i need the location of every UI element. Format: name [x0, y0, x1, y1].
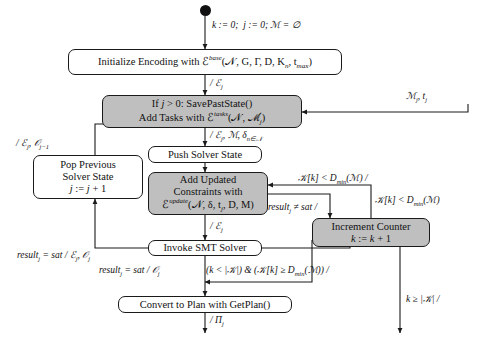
node-push-solver-state[interactable]: Push Solver State — [148, 146, 262, 163]
flowchart-canvas: Initialize Encoding with ℰbase(𝒩, G, Γ, … — [0, 0, 489, 344]
edge-label-plan-out: / Πj — [210, 316, 224, 327]
node-add-updated-constraints[interactable]: Add Updated Constraints with ℰupdate(𝒩, … — [148, 172, 268, 215]
node-increment-counter[interactable]: Increment Counter k := k + 1 — [312, 218, 430, 247]
node-save-past-state[interactable]: If j > 0: SavePastState() Add Tasks with… — [102, 95, 302, 128]
node-increment-line-1: Increment Counter — [331, 221, 410, 233]
node-convert-line-1: Convert to Plan with GetPlan() — [140, 299, 271, 311]
node-initialize[interactable]: Initialize Encoding with ℰbase(𝒩, G, Γ, … — [68, 49, 342, 75]
node-initialize-line-1: Initialize Encoding with ℰbase(𝒩, G, Γ, … — [98, 54, 312, 70]
edge-label-kmin-top: 𝒦[k] < Dmin(ℳ) / — [298, 174, 368, 185]
node-convert-to-plan[interactable]: Convert to Plan with GetPlan() — [118, 296, 292, 313]
edge-label-save-out: / ℰj, ℳ, δn∈𝒩 — [210, 131, 262, 142]
edge-label-result-notsat: resultj ≠ sat / — [268, 203, 317, 214]
node-update-line-1: Add Updated — [180, 174, 236, 186]
node-update-line-2: Constraints with — [173, 186, 242, 198]
edge-label-result-sat-o: resultj = sat / 𝒪j — [99, 266, 160, 277]
node-pop-line-2: Solver State — [62, 171, 113, 183]
node-invoke-line-1: Invoke SMT Solver — [163, 242, 246, 254]
node-push-line-1: Push Solver State — [168, 149, 242, 161]
node-increment-line-2: k := k + 1 — [351, 233, 391, 245]
edge-label-tasks-input: ℳj, tj — [406, 92, 427, 103]
node-pop-previous-solver-state[interactable]: Pop Previous Solver State j := j + 1 — [33, 155, 143, 199]
edge-label-init-guard: k := 0; j := 0; ℳ = ∅ — [212, 21, 300, 31]
start-node — [200, 5, 211, 16]
node-update-line-3: ℰupdate(𝒩, δ, tj, D, M) — [162, 197, 254, 213]
node-pop-line-1: Pop Previous — [60, 159, 116, 171]
edge-label-result-sat-eo: resultj = sat / ℰj, 𝒪j — [17, 251, 90, 262]
edge-label-counter-guard: (k < |𝒦|) & (𝒦[k] ≥ Dmin(ℳ)) / — [206, 266, 329, 277]
edge-label-kmin-right: 𝒦[k] < Dmin(ℳ) — [375, 196, 440, 207]
node-invoke-smt-solver[interactable]: Invoke SMT Solver — [148, 240, 262, 256]
edge-label-encoding-out: / ℰj — [210, 79, 223, 90]
edge-label-pop-in: / ℰj, 𝒪j−1 — [16, 139, 49, 150]
node-save-past-state-line-1: If j > 0: SavePastState() — [152, 98, 252, 110]
edge-label-k-exhausted: k ≥ |𝒦| / — [406, 295, 439, 305]
node-pop-line-3: j := j + 1 — [70, 183, 106, 195]
edge-label-update-out: / ℰj — [210, 222, 223, 233]
node-save-past-state-line-2: Add Tasks with ℰtasks(𝒩, ℳj) — [139, 110, 265, 126]
